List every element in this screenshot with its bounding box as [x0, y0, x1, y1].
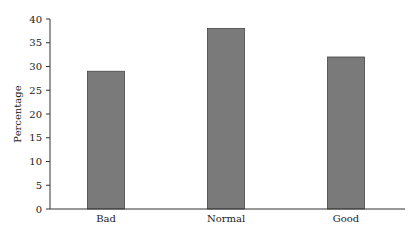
y-tick-label: 40 — [29, 14, 42, 25]
y-tick-label: 30 — [29, 61, 42, 72]
x-category-label: Good — [333, 213, 360, 224]
y-tick-label: 20 — [29, 109, 42, 120]
x-category-label: Normal — [207, 213, 245, 224]
x-axis: BadNormalGood — [50, 209, 405, 224]
y-tick-label: 35 — [29, 37, 42, 48]
y-axis: 0510152025303540 — [29, 14, 50, 215]
bars — [88, 29, 365, 210]
y-tick-label: 5 — [36, 180, 42, 191]
bar-normal — [208, 29, 245, 210]
bar-chart: 0510152025303540 BadNormalGood Percentag… — [0, 0, 415, 234]
y-tick-label: 10 — [29, 156, 42, 167]
y-tick-label: 15 — [29, 132, 42, 143]
x-category-label: Bad — [96, 213, 116, 224]
y-axis-title: Percentage — [12, 85, 23, 142]
y-tick-label: 25 — [29, 85, 42, 96]
bar-good — [328, 57, 365, 209]
bar-bad — [88, 71, 125, 209]
y-tick-label: 0 — [36, 204, 42, 215]
